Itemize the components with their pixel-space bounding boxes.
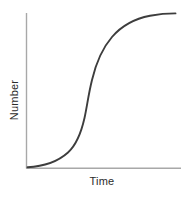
logistic-growth-curve xyxy=(28,13,176,167)
y-axis-label: Number xyxy=(9,40,20,160)
x-axis-label: Time xyxy=(42,176,162,187)
growth-curve-figure: Number Time xyxy=(0,0,187,200)
plot-area xyxy=(0,0,187,200)
